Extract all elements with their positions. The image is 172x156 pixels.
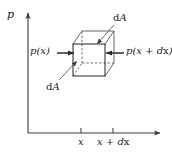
area-label-top: dA <box>113 13 127 23</box>
area-bottom-var: A <box>52 81 59 92</box>
diagram-canvas <box>0 0 172 156</box>
pressure-element-figure: p p(x) p(x + dx) dA dA x x + dx <box>0 0 172 156</box>
cube-front-face <box>73 44 105 76</box>
area-top-var: A <box>119 12 126 23</box>
leader-line-area-bottom <box>59 61 77 80</box>
pressure-left-label: p(x) <box>30 46 50 56</box>
pressure-right-suffix: ) <box>169 45 172 56</box>
axis-ticks <box>81 128 113 133</box>
tick-xdx-var: x <box>124 136 130 147</box>
tick-xdx-prefix: x + d <box>97 136 124 147</box>
pressure-right-prefix: p(x + d <box>126 45 163 56</box>
pressure-right-label: p(x + dx) <box>126 46 172 56</box>
tick-label-x-plus-dx: x + dx <box>97 137 129 147</box>
tick-label-x: x <box>78 137 84 147</box>
area-label-bottom: dA <box>46 82 60 92</box>
cube-back-face <box>82 31 114 63</box>
y-axis-label: p <box>7 9 14 20</box>
